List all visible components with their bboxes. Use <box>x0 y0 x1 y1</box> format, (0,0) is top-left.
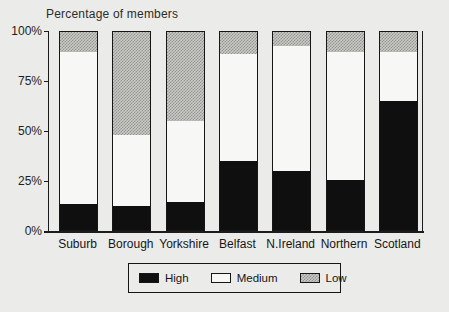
x-axis-category-label: Scotland <box>362 237 432 251</box>
segment-high <box>220 161 257 230</box>
legend-label-medium: Medium <box>237 272 278 284</box>
segment-low <box>327 32 364 52</box>
segment-low <box>220 32 257 54</box>
chart-figure: Percentage of members High Medium Low 0%… <box>0 0 449 312</box>
bar-suburb <box>59 31 98 231</box>
segment-low <box>60 32 97 52</box>
segment-medium <box>113 135 150 206</box>
segment-low <box>167 32 204 121</box>
y-axis-tick <box>44 231 48 232</box>
low-swatch-icon <box>300 273 320 283</box>
legend: High Medium Low <box>128 263 341 293</box>
y-axis-tick-label: 50% <box>4 124 42 138</box>
bar-n-ireland <box>272 31 311 231</box>
y-axis-tick-label: 0% <box>4 224 42 238</box>
legend-item-high: High <box>139 272 189 284</box>
segment-high <box>113 206 150 230</box>
bar-borough <box>112 31 151 231</box>
legend-label-high: High <box>165 272 189 284</box>
segment-medium <box>327 52 364 181</box>
segment-high <box>327 180 364 230</box>
bar-scotland <box>379 31 418 231</box>
y-axis-tick <box>44 31 48 32</box>
segment-medium <box>380 52 417 102</box>
y-axis-tick-label: 75% <box>4 74 42 88</box>
legend-item-medium: Medium <box>211 272 278 284</box>
segment-low <box>273 32 310 46</box>
y-axis-tick <box>44 81 48 82</box>
segment-low <box>380 32 417 52</box>
segment-high <box>380 101 417 230</box>
chart-title: Percentage of members <box>46 7 178 21</box>
segment-medium <box>220 54 257 161</box>
legend-label-low: Low <box>326 272 347 284</box>
y-axis-tick <box>44 131 48 132</box>
segment-medium <box>273 46 310 171</box>
bar-northern <box>326 31 365 231</box>
y-axis-tick-label: 25% <box>4 174 42 188</box>
segment-high <box>167 202 204 230</box>
medium-swatch-icon <box>211 273 231 283</box>
legend-item-low: Low <box>300 272 347 284</box>
bar-yorkshire <box>166 31 205 231</box>
bar-belfast <box>219 31 258 231</box>
high-swatch-icon <box>139 273 159 283</box>
plot-area <box>48 31 423 231</box>
segment-medium <box>167 121 204 202</box>
segment-medium <box>60 52 97 204</box>
x-axis-line <box>44 231 424 233</box>
segment-low <box>113 32 150 135</box>
y-axis-tick-label: 100% <box>4 24 42 38</box>
y-axis-tick <box>44 181 48 182</box>
segment-high <box>273 171 310 230</box>
segment-high <box>60 204 97 230</box>
